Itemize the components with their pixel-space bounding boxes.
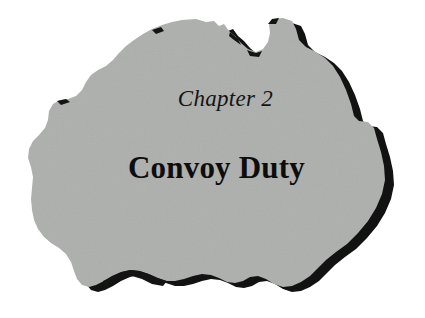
australia-map-figure	[0, 0, 425, 318]
map-landmass	[28, 18, 385, 287]
chapter-opening-page: Chapter 2 Convoy Duty	[0, 0, 425, 318]
